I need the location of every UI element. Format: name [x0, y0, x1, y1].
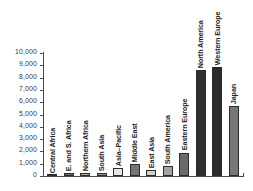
bar-category-label: Northern Africa [81, 120, 88, 171]
bar-category-label: Middle East [131, 123, 138, 162]
bar-column [97, 173, 107, 176]
bar [146, 170, 156, 176]
bar-column [196, 70, 206, 176]
bar [80, 173, 90, 176]
bar [97, 173, 107, 176]
bar-column [80, 173, 90, 176]
bar-column [179, 153, 189, 176]
bar-category-label: E. and S. Africa [65, 120, 72, 171]
bar-category-label: Japan [230, 84, 237, 104]
bar-column [64, 173, 74, 176]
bar-chart-figure: 10,0009,0008,0007,0006,0005,0004,0003,00… [0, 0, 253, 191]
bar [196, 70, 206, 176]
y-axis-tick-label: 5,000 [19, 110, 37, 117]
bar-column [130, 164, 140, 176]
bar-category-label: North America [197, 20, 204, 68]
bar [163, 166, 173, 176]
bar-category-label: South America [164, 115, 171, 164]
bar [179, 153, 189, 176]
y-axis-tick-label: 8,000 [19, 73, 37, 80]
y-axis-tick-label: 4,000 [19, 122, 37, 129]
plot-area: Central AfricaE. and S. AfricaNorthern A… [44, 53, 242, 176]
bar-category-label: Eastern Europe [180, 99, 187, 151]
bar [113, 168, 123, 176]
bar-column [47, 175, 57, 176]
y-axis-tick-label: 9,000 [19, 60, 37, 67]
bar [212, 67, 222, 176]
bar-column [113, 168, 123, 176]
y-axis-tick-label: 1,000 [19, 159, 37, 166]
bar-category-label: East Asia [147, 137, 154, 168]
y-axis-tick-label: 3,000 [19, 134, 37, 141]
y-axis-tick-label: 6,000 [19, 97, 37, 104]
bar [229, 106, 239, 176]
y-axis-tick-label: 0 [33, 171, 37, 178]
bar-category-label: South Asia [98, 135, 105, 171]
bar-column [212, 67, 222, 176]
bar-column [146, 170, 156, 176]
y-axis-tick-label: 7,000 [19, 85, 37, 92]
y-axis-tick-label: 10,000 [15, 48, 37, 55]
bar-column [229, 106, 239, 176]
bar-category-label: Asia–Pacific [114, 125, 121, 166]
x-axis-end-cap [243, 173, 244, 177]
bar [130, 164, 140, 176]
y-axis-tick-mark [40, 176, 44, 177]
bar-category-label: Central Africa [48, 127, 55, 172]
bar [47, 174, 57, 176]
x-axis-line [43, 176, 244, 177]
bar [64, 173, 74, 176]
bar-column [163, 166, 173, 176]
bar-category-label: Western Europe [213, 12, 220, 66]
y-axis-tick-label: 2,000 [19, 146, 37, 153]
